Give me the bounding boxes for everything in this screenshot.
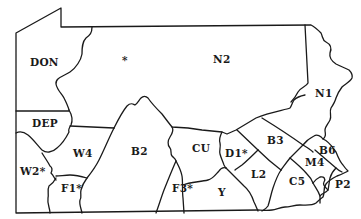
label-b3[interactable]: B3 xyxy=(267,134,284,146)
label-p2[interactable]: P2 xyxy=(335,178,351,190)
boundary-b2-cu xyxy=(168,127,176,161)
boundary-b2-north xyxy=(114,95,305,134)
star-marker-icon: * xyxy=(122,54,128,66)
label-f1[interactable]: F1* xyxy=(61,182,82,194)
label-d1[interactable]: D1* xyxy=(225,147,248,159)
label-dep[interactable]: DEP xyxy=(32,117,58,129)
label-don[interactable]: DON xyxy=(30,56,59,68)
label-b6[interactable]: B6 xyxy=(319,144,336,156)
label-y[interactable]: Y xyxy=(217,186,226,198)
label-cu[interactable]: CU xyxy=(192,142,210,154)
boundary-w4-north xyxy=(70,126,114,128)
label-l2[interactable]: L2 xyxy=(251,168,266,180)
boundary-f1-north xyxy=(56,175,87,213)
label-w4[interactable]: W4 xyxy=(72,147,93,159)
boundary-c5-p2 xyxy=(313,183,320,196)
label-f3[interactable]: F3* xyxy=(172,182,193,194)
label-m4[interactable]: M4 xyxy=(305,156,325,168)
label-b2[interactable]: B2 xyxy=(131,145,148,157)
boundary-w2-f1 xyxy=(48,178,56,213)
label-c5[interactable]: C5 xyxy=(289,175,305,187)
boundary-don-n2 xyxy=(56,27,92,110)
label-n1[interactable]: N1 xyxy=(315,87,333,99)
boundary-b3-l2 xyxy=(258,150,281,170)
boundary-m4-p2 xyxy=(313,177,328,203)
boundary-n2-n1 xyxy=(291,25,308,102)
region-labels: DON N2 N1 DEP W4 W2* F1* B2 CU F3* D1* B… xyxy=(19,53,351,198)
label-w2[interactable]: W2* xyxy=(19,165,46,177)
pennsylvania-region-map: DON N2 N1 DEP W4 W2* F1* B2 CU F3* D1* B… xyxy=(0,0,361,219)
label-n2[interactable]: N2 xyxy=(213,53,231,65)
